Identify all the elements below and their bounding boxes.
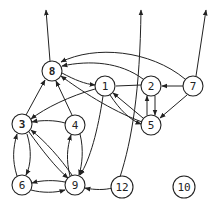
node-5: 5 — [141, 115, 161, 135]
svg-text:6: 6 — [19, 179, 26, 192]
svg-text:12: 12 — [115, 181, 128, 194]
edge-8-out — [46, 10, 50, 61]
edge-4-9 — [79, 134, 82, 175]
node-2: 2 — [141, 76, 161, 96]
graph-svg: 1 2 3 4 5 6 7 8 9 10 12 — [0, 0, 216, 209]
svg-text:3: 3 — [19, 118, 26, 131]
edge-7-8 — [61, 52, 185, 79]
node-3: 3 — [12, 114, 32, 134]
node-8: 8 — [42, 61, 62, 81]
edge-3-9 — [29, 132, 68, 178]
svg-text:8: 8 — [49, 65, 56, 78]
svg-text:4: 4 — [72, 119, 79, 132]
directed-graph-diagram: 1 2 3 4 5 6 7 8 9 10 12 — [0, 0, 216, 209]
nodes: 1 2 3 4 5 6 7 8 9 10 12 — [12, 61, 203, 198]
edge-6-3 — [14, 134, 17, 176]
edge-1-3 — [31, 89, 95, 119]
svg-text:9: 9 — [72, 179, 79, 192]
node-6: 6 — [12, 175, 32, 195]
edge-7-out — [196, 10, 206, 76]
svg-text:5: 5 — [148, 119, 155, 132]
node-1: 1 — [95, 76, 115, 96]
svg-text:10: 10 — [177, 181, 190, 194]
edges — [14, 10, 206, 192]
svg-text:7: 7 — [190, 80, 197, 93]
node-7: 7 — [183, 76, 203, 96]
node-12: 12 — [111, 176, 133, 198]
edge-3-8 — [26, 80, 45, 115]
node-10: 10 — [173, 176, 195, 198]
edge-1-9 — [80, 96, 103, 175]
node-4: 4 — [65, 115, 85, 135]
edge-3-6 — [26, 134, 30, 175]
edge-8-1 — [62, 73, 95, 85]
node-9: 9 — [65, 175, 85, 195]
svg-text:2: 2 — [148, 80, 155, 93]
edge-6-9 — [31, 190, 65, 192]
svg-text:1: 1 — [102, 80, 109, 93]
edge-7-5 — [160, 95, 187, 118]
edge-12-9 — [85, 188, 112, 190]
edge-4-3 — [32, 121, 65, 123]
edge-12-out — [120, 10, 141, 177]
edge-9-6 — [32, 181, 65, 183]
edge-9-3 — [31, 130, 72, 175]
